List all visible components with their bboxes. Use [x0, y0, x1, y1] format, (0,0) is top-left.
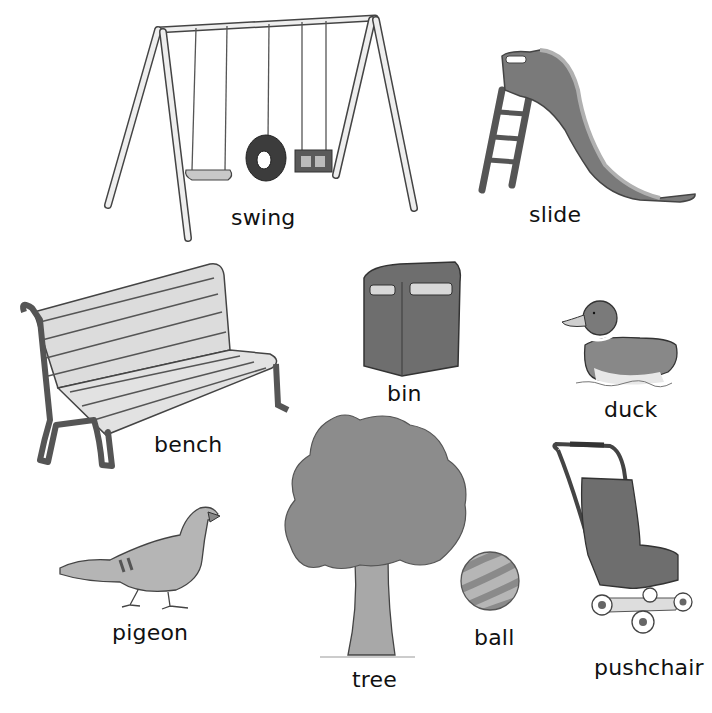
pushchair-illustration: pushchair [0, 0, 712, 713]
pushchair-drawing [0, 0, 712, 713]
ball-illustration: ball [0, 0, 712, 713]
bench-illustration: bench [0, 0, 712, 713]
pushchair-label: pushchair [594, 655, 704, 680]
duck-label: duck [604, 397, 658, 422]
ball-drawing [0, 0, 712, 713]
tree-drawing [0, 0, 712, 713]
duck-illustration: duck [0, 0, 712, 713]
pigeon-drawing [0, 0, 712, 713]
bench-drawing [0, 0, 712, 713]
bin-illustration: bin [0, 0, 712, 713]
tree-illustration: tree [0, 0, 712, 713]
ball-label: ball [474, 625, 514, 650]
bin-drawing [0, 0, 712, 713]
bin-label: bin [387, 381, 422, 406]
swing-drawing [0, 0, 712, 713]
pigeon-illustration: pigeon [0, 0, 712, 713]
slide-drawing [0, 0, 712, 713]
swing-illustration: swing [0, 0, 712, 713]
duck-drawing [0, 0, 712, 713]
pigeon-label: pigeon [112, 620, 188, 645]
swing-label: swing [231, 205, 295, 230]
tree-label: tree [352, 667, 397, 692]
slide-label: slide [529, 202, 581, 227]
slide-illustration: slide [0, 0, 712, 713]
bench-label: bench [154, 432, 222, 457]
